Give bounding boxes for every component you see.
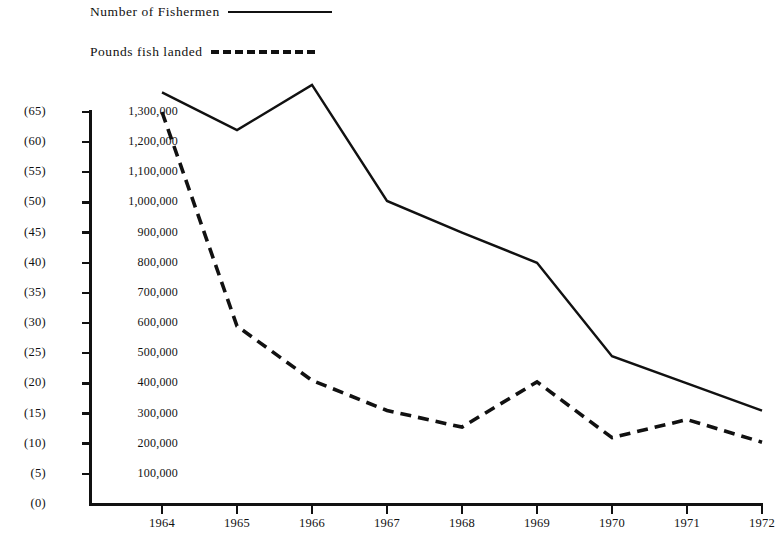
series-line-pounds-fish-landed <box>162 112 762 442</box>
series-line-number-of-fishermen <box>162 85 762 411</box>
